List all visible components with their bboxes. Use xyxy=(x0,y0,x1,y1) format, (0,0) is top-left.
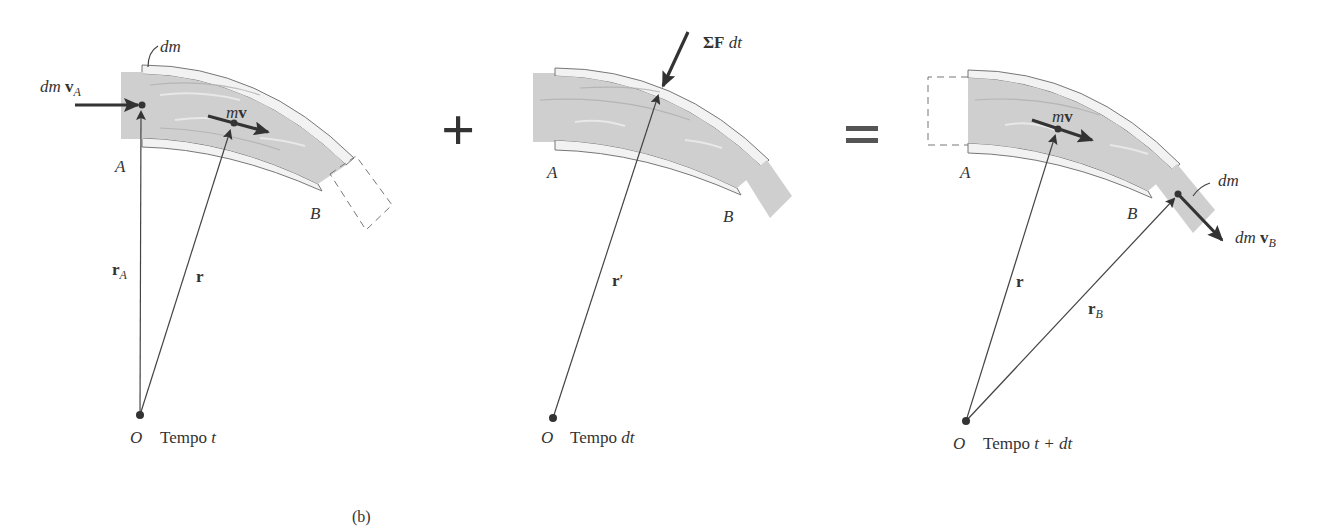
label-B: B xyxy=(1127,204,1138,223)
r-label: r xyxy=(1016,272,1024,291)
label-A: A xyxy=(546,163,558,182)
dm-label: dm xyxy=(160,37,181,56)
dm-vB-label: dm vB xyxy=(1235,228,1277,250)
mass-center-dot xyxy=(1055,126,1062,133)
sumF-dt-arrow xyxy=(663,32,688,86)
mv-label: mv xyxy=(226,103,247,122)
fluid-inflow-region xyxy=(533,73,557,142)
dm-label: dm xyxy=(1218,171,1239,190)
plus-operator: + xyxy=(441,97,475,163)
label-A: A xyxy=(114,157,126,176)
equals-operator xyxy=(846,126,878,143)
rA-vector xyxy=(140,112,141,415)
r-label: r xyxy=(196,267,204,286)
label-B: B xyxy=(723,207,734,226)
time-label: Tempo dt xyxy=(570,428,636,447)
point-B-dot xyxy=(1175,191,1182,198)
r-prime-label: r′ xyxy=(612,271,623,290)
origin-O-label: O xyxy=(130,428,142,447)
rA-label: rA xyxy=(112,260,128,282)
origin-O-dot xyxy=(549,414,557,422)
r-vector xyxy=(966,136,1055,421)
rB-vector xyxy=(966,199,1174,421)
mv-label: mv xyxy=(1052,107,1073,126)
point-A-dot xyxy=(139,102,146,109)
origin-O-dot xyxy=(136,411,144,419)
panel-time-t: dm dm vA mv A B rA r O Tempo t xyxy=(40,37,392,447)
origin-O-label: O xyxy=(953,434,965,453)
fluid-momentum-diagram: dm dm vA mv A B rA r O Tempo t + xyxy=(0,0,1321,532)
pipe-segment xyxy=(121,65,392,230)
label-A: A xyxy=(959,163,971,182)
origin-O-dot xyxy=(962,417,970,425)
sumF-dt-label: ΣF dt xyxy=(703,33,743,52)
r-vector xyxy=(140,131,230,415)
dm-vA-label: dm vA xyxy=(40,77,82,99)
origin-O-label: O xyxy=(541,428,553,447)
figure-caption: (b) xyxy=(352,508,371,526)
time-label: Tempo t xyxy=(160,428,217,447)
time-label: Tempo t + dt xyxy=(983,434,1073,453)
panel-time-t-plus-dt: mv dm dm vB A B r rB O Tempo t + dt xyxy=(928,70,1277,453)
label-B: B xyxy=(310,204,321,223)
dm-inlet-dashed-region xyxy=(928,77,968,145)
panel-time-dt: ΣF dt A B r′ O Tempo dt xyxy=(533,32,792,447)
rB-label: rB xyxy=(1088,299,1104,321)
